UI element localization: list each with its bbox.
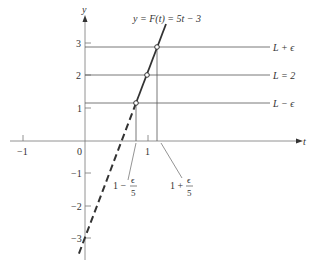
y-axis-arrow-icon [83, 15, 88, 22]
svg-text:ϵ: ϵ [131, 175, 135, 185]
t-tick-neg1: −1 [17, 146, 28, 157]
svg-text:ϵ: ϵ [187, 175, 191, 185]
function-line-dashed [78, 103, 136, 256]
function-title: y = F(t) = 5t − 3 [132, 13, 201, 25]
svg-text:1 −: 1 − [113, 180, 127, 191]
svg-text:5: 5 [131, 188, 136, 198]
function-line-solid [136, 24, 166, 103]
svg-text:1 +: 1 + [170, 180, 184, 191]
y-tick-neg2: −2 [71, 201, 82, 212]
t-tick-1: 1 [145, 146, 150, 157]
t-axis-label: t [303, 136, 306, 147]
y-tick-neg3: −3 [71, 233, 82, 244]
t-tick-0: 0 [77, 146, 82, 157]
label-L-plus-epsilon: L + ϵ [272, 42, 295, 53]
interval-label-right: 1 + ϵ 5 [170, 175, 193, 198]
interval-label-left: 1 − ϵ 5 [113, 175, 137, 198]
y-ticks [85, 43, 91, 238]
t-axis-arrow-icon [296, 139, 303, 144]
t-ticks [23, 135, 148, 141]
label-L-equals-2: L = 2 [272, 70, 295, 81]
y-tick-neg1: −1 [71, 168, 82, 179]
y-tick-2: 2 [76, 70, 81, 81]
limit-diagram: y t y = F(t) = 5t − 3 3 2 1 −1 −2 −3 −1 … [0, 0, 314, 270]
y-tick-3: 3 [76, 38, 81, 49]
point-limit [145, 73, 150, 78]
point-upper [155, 45, 160, 50]
leader-right [161, 143, 182, 178]
y-tick-1: 1 [77, 103, 82, 114]
point-lower [134, 101, 139, 106]
label-L-minus-epsilon: L − ϵ [272, 98, 295, 109]
y-axis-label: y [81, 4, 87, 15]
svg-text:5: 5 [187, 188, 192, 198]
